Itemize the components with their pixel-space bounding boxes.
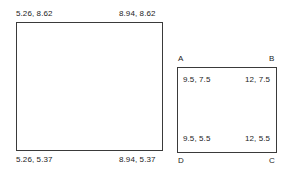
right-rectangle-bottom-right-coordinate: 12, 5.5 [245,134,270,143]
left-rectangle-outline [16,22,163,151]
left-rectangle-top-left-coordinate: 5.26, 8.62 [16,9,53,18]
right-rectangle-bottom-left-coordinate: 9.5, 5.5 [183,134,211,143]
right-rectangle-vertex-d-label: D [178,156,184,165]
diagram-canvas: 5.26, 8.62 8.94, 8.62 5.26, 5.37 8.94, 5… [0,0,287,175]
right-rectangle-top-left-coordinate: 9.5, 7.5 [183,75,211,84]
right-rectangle-vertex-b-label: B [269,54,274,63]
left-rectangle-top-right-coordinate: 8.94, 8.62 [119,9,156,18]
right-rectangle-top-right-coordinate: 12, 7.5 [245,75,270,84]
right-rectangle-vertex-a-label: A [178,54,183,63]
right-rectangle-vertex-c-label: C [269,156,275,165]
left-rectangle-bottom-right-coordinate: 8.94, 5.37 [119,155,156,164]
left-rectangle-bottom-left-coordinate: 5.26, 5.37 [16,155,53,164]
